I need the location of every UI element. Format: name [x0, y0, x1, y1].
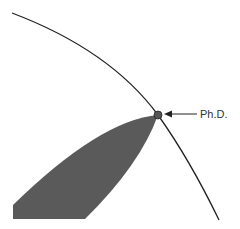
phd-label: Ph.D.	[200, 107, 228, 121]
knowledge-wedge	[13, 115, 158, 219]
arrow-head-icon	[164, 111, 172, 118]
phd-point	[154, 111, 162, 119]
